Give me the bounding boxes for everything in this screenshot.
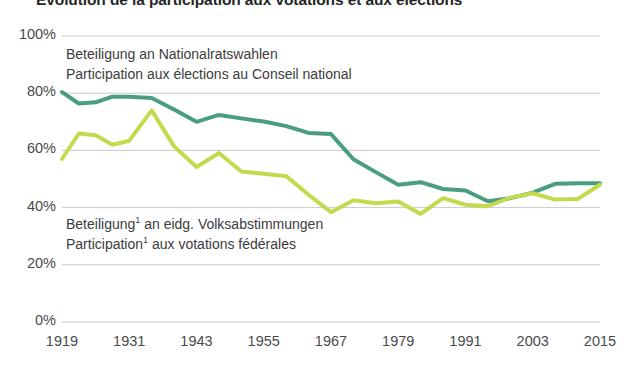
legend-votations: Beteiligung1 an eidg. Volksabstimmungen … (66, 214, 323, 254)
x-axis-tick-1991: 1991 (431, 333, 501, 349)
series-lines (62, 92, 600, 214)
x-axis-tick-1943: 1943 (162, 333, 232, 349)
y-axis-tick-0: 0% (0, 312, 56, 328)
x-axis-tick-1979: 1979 (363, 333, 433, 349)
x-axis-tick-2003: 2003 (498, 333, 568, 349)
x-axis-tick-1955: 1955 (229, 333, 299, 349)
y-axis-tick-80: 80% (0, 83, 56, 99)
chart-container: Evolution de la participation aux votati… (0, 0, 639, 372)
x-axis-tick-2015: 2015 (565, 333, 635, 349)
y-axis-tick-100: 100% (0, 26, 56, 42)
x-axis-tick-1931: 1931 (94, 333, 164, 349)
legend-votations-fr: Participation1 aux votations fédérales (66, 234, 323, 254)
y-axis-tick-40: 40% (0, 198, 56, 214)
x-axis-tick-1919: 1919 (27, 333, 97, 349)
x-axis-tick-1967: 1967 (296, 333, 366, 349)
legend-elections-fr: Participation aux élections au Conseil n… (66, 64, 352, 84)
legend-elections: Beteiligung an Nationalratswahlen Partic… (66, 44, 352, 84)
y-axis-tick-60: 60% (0, 140, 56, 156)
legend-elections-de: Beteiligung an Nationalratswahlen (66, 46, 278, 62)
y-axis-tick-20: 20% (0, 255, 56, 271)
legend-votations-de: Beteiligung1 an eidg. Volksabstimmungen (66, 216, 323, 232)
series-line-0 (62, 92, 600, 201)
series-line-1 (62, 110, 600, 214)
footnote-strip (0, 358, 639, 372)
